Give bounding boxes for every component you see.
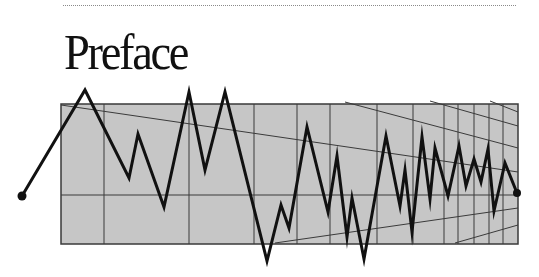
end-dot: [513, 189, 521, 197]
start-dot: [18, 192, 27, 201]
decorative-zigzag-figure: [0, 0, 539, 277]
